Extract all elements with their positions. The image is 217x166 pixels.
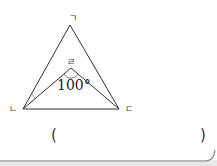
vertex-label-right: ㄷ xyxy=(125,105,133,114)
close-paren: ) xyxy=(200,128,206,143)
triangle-diagram xyxy=(0,0,217,166)
angle-label: 100° xyxy=(57,78,91,92)
angle-arc-left xyxy=(32,94,35,99)
open-paren: ( xyxy=(51,128,57,143)
answer-box-border xyxy=(0,150,215,161)
vertex-label-top: ㄱ xyxy=(69,14,77,23)
vertex-label-inner: ㄹ xyxy=(67,58,75,67)
vertex-label-left: ㄴ xyxy=(9,105,17,114)
